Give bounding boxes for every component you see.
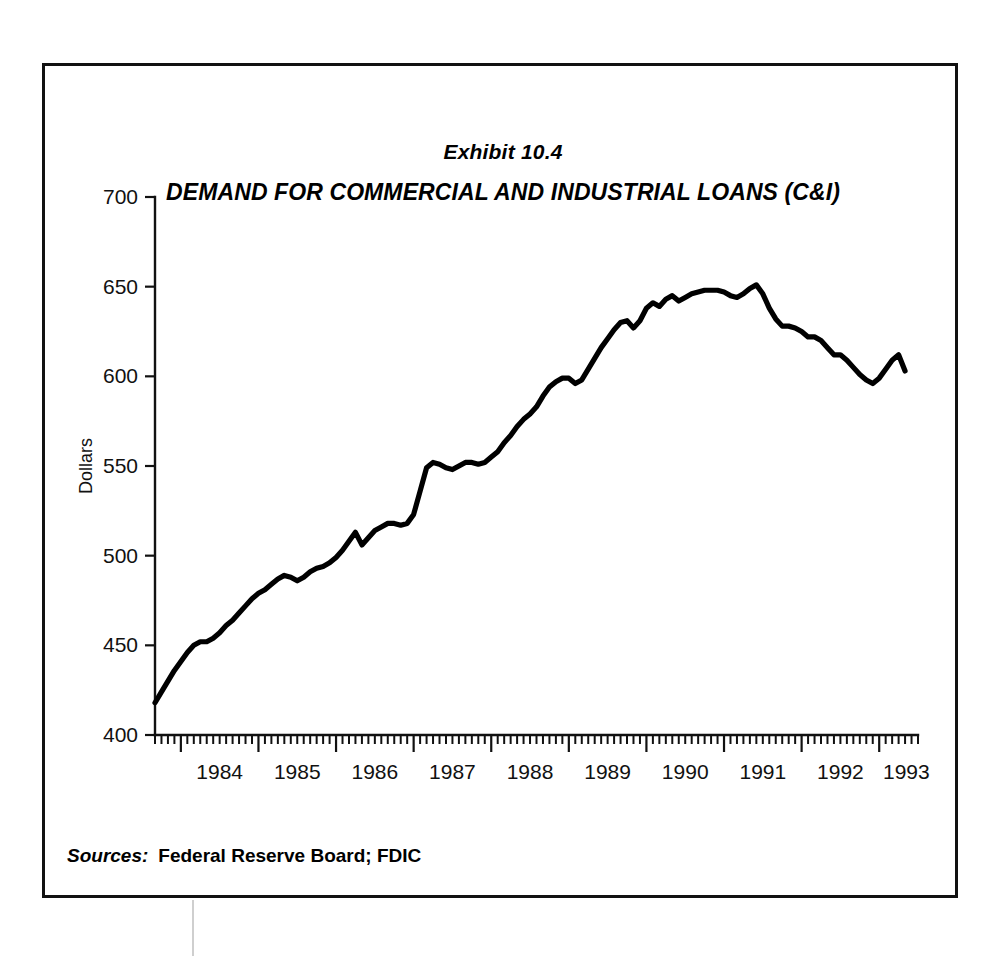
exhibit-page: Exhibit 10.4 DEMAND FOR COMMERCIAL AND I… (0, 0, 998, 956)
scan-artifact-line (192, 900, 194, 956)
exhibit-number-label: Exhibit 10.4 (45, 140, 961, 164)
chart-title: DEMAND FOR COMMERCIAL AND INDUSTRIAL LOA… (45, 179, 961, 206)
sources-text: Federal Reserve Board; FDIC (158, 845, 421, 866)
exhibit-frame: Exhibit 10.4 DEMAND FOR COMMERCIAL AND I… (42, 63, 958, 898)
sources-note: Sources:Federal Reserve Board; FDIC (67, 845, 421, 867)
sources-label: Sources: (67, 845, 148, 866)
